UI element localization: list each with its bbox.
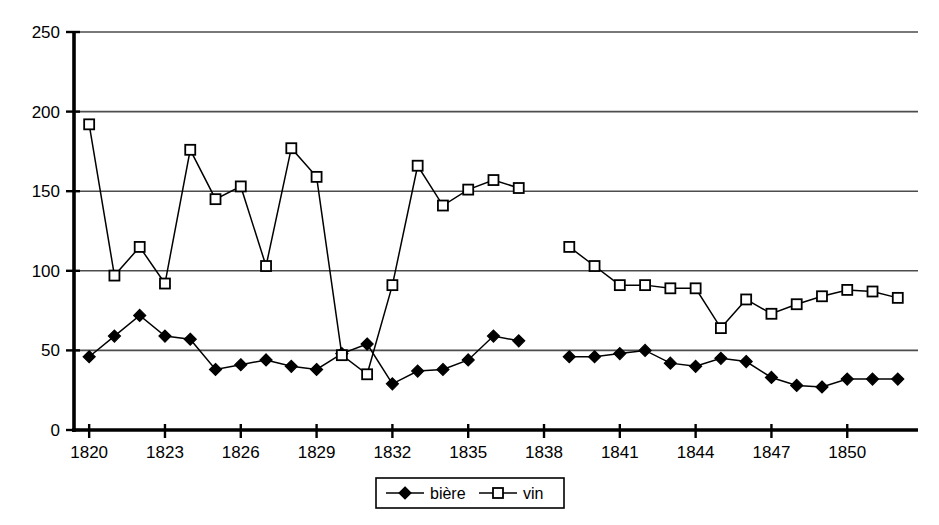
data-point-vin (488, 175, 498, 185)
data-point-biere (791, 379, 803, 391)
series-line-segment (89, 124, 519, 374)
data-point-biere (386, 378, 398, 390)
data-point-biere (412, 365, 424, 377)
data-point-vin (817, 291, 827, 301)
line-chart: 0501001502002501820182318261829183218351… (0, 0, 939, 525)
data-point-vin (84, 119, 94, 129)
legend-label-vin: vin (523, 485, 543, 502)
data-point-biere (513, 335, 525, 347)
x-tick-label: 1823 (146, 443, 184, 462)
data-point-vin (387, 280, 397, 290)
data-point-vin (615, 280, 625, 290)
x-tick-label: 1829 (298, 443, 336, 462)
data-point-biere (285, 360, 297, 372)
data-point-biere (664, 357, 676, 369)
x-tick-label: 1850 (828, 443, 866, 462)
data-point-vin (337, 350, 347, 360)
y-tick-label: 250 (32, 23, 60, 42)
data-point-vin (514, 183, 524, 193)
data-point-vin (640, 280, 650, 290)
data-point-vin (236, 181, 246, 191)
data-point-biere (235, 359, 247, 371)
x-tick-label: 1844 (677, 443, 715, 462)
data-point-vin (286, 143, 296, 153)
x-tick-label: 1847 (753, 443, 791, 462)
data-point-biere (816, 381, 828, 393)
data-point-biere (867, 373, 879, 385)
data-point-vin (261, 261, 271, 271)
x-tick-label: 1835 (449, 443, 487, 462)
data-point-vin (741, 294, 751, 304)
data-point-vin (842, 285, 852, 295)
data-point-biere (765, 371, 777, 383)
x-tick-label: 1841 (601, 443, 639, 462)
data-point-biere (841, 373, 853, 385)
legend-label-biere: bière (430, 485, 466, 502)
x-tick-label: 1826 (222, 443, 260, 462)
y-tick-label: 150 (32, 182, 60, 201)
data-point-biere (589, 351, 601, 363)
data-point-biere (260, 354, 272, 366)
data-point-vin (792, 299, 802, 309)
data-point-biere (740, 356, 752, 368)
y-tick-label: 100 (32, 262, 60, 281)
data-point-vin (716, 323, 726, 333)
data-point-vin (564, 242, 574, 252)
y-tick-label: 200 (32, 103, 60, 122)
chart-container: 0501001502002501820182318261829183218351… (0, 0, 939, 525)
data-point-vin (135, 242, 145, 252)
data-point-vin (413, 161, 423, 171)
data-point-biere (639, 344, 651, 356)
data-point-vin (590, 261, 600, 271)
data-point-vin (185, 145, 195, 155)
y-tick-label: 0 (51, 421, 60, 440)
data-point-biere (715, 352, 727, 364)
legend-marker-vin (493, 488, 503, 498)
legend: bièrevin (376, 478, 564, 508)
data-point-biere (311, 364, 323, 376)
data-point-vin (766, 309, 776, 319)
data-point-vin (109, 271, 119, 281)
data-point-vin (868, 286, 878, 296)
axes (72, 32, 918, 432)
data-point-biere (361, 338, 373, 350)
y-tick-label: 50 (41, 341, 60, 360)
x-tick-label: 1820 (70, 443, 108, 462)
data-point-biere (437, 364, 449, 376)
data-point-vin (463, 185, 473, 195)
x-tick-label: 1838 (525, 443, 563, 462)
data-point-vin (312, 172, 322, 182)
data-point-biere (614, 348, 626, 360)
data-point-vin (893, 293, 903, 303)
data-point-vin (211, 194, 221, 204)
data-point-vin (438, 201, 448, 211)
data-point-vin (691, 283, 701, 293)
data-point-biere (690, 360, 702, 372)
data-point-biere (892, 373, 904, 385)
data-point-vin (160, 279, 170, 289)
data-point-biere (563, 351, 575, 363)
data-point-vin (362, 369, 372, 379)
x-tick-label: 1832 (373, 443, 411, 462)
data-point-vin (665, 283, 675, 293)
